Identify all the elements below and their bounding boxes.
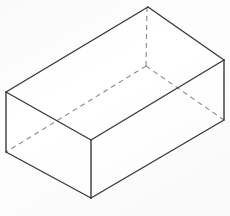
rectangular-box-diagram: Rectangular Box Wireframe Isometric line… xyxy=(0,0,230,216)
figure-canvas: Rectangular Box Wireframe Isometric line… xyxy=(0,0,230,216)
